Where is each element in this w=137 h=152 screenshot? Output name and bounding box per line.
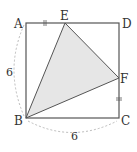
- label-F: F: [120, 72, 128, 86]
- label-C: C: [121, 114, 130, 128]
- label-B: B: [14, 114, 23, 128]
- shaded-triangle-BEF: [26, 23, 119, 118]
- left-measure-arc: [14, 25, 24, 116]
- label-A: A: [13, 17, 23, 31]
- bottom-side-length: 6: [71, 130, 78, 143]
- label-E: E: [60, 9, 69, 23]
- left-side-length: 6: [6, 66, 13, 79]
- geometry-diagram: A E D F B C 6 6: [0, 0, 137, 152]
- label-D: D: [122, 17, 132, 31]
